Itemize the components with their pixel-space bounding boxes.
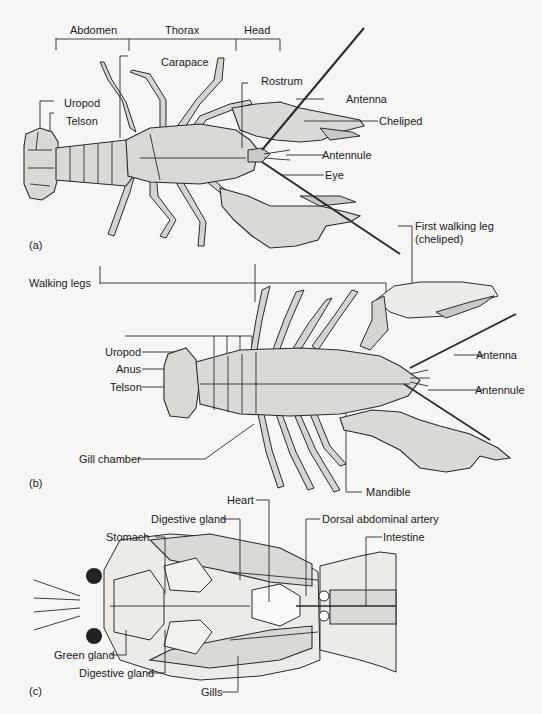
label-anus: Anus <box>116 363 141 375</box>
label-digestive-gland-bottom: Digestive gland <box>79 667 154 679</box>
region-brackets <box>56 38 280 51</box>
panel-label-b: (b) <box>29 477 42 489</box>
label-dorsal-abdominal-artery: Dorsal abdominal artery <box>322 513 439 525</box>
label-thorax: Thorax <box>165 24 199 36</box>
label-head: Head <box>244 24 270 36</box>
label-heart: Heart <box>227 494 254 506</box>
label-mandible: Mandible <box>366 486 411 498</box>
label-carapace: Carapace <box>161 56 209 68</box>
panel-label-a: (a) <box>29 239 42 251</box>
label-eye: Eye <box>325 169 344 181</box>
crayfish-ventral-view <box>164 282 516 492</box>
label-gill-chamber: Gill chamber <box>79 453 141 465</box>
label-antennule-a: Antennule <box>322 149 372 161</box>
label-first-walking-leg: First walking leg <box>415 220 494 232</box>
panel-label-c: (c) <box>29 685 42 697</box>
label-rostrum: Rostrum <box>261 75 303 87</box>
label-cheliped: Cheliped <box>379 115 422 127</box>
label-walking-legs: Walking legs <box>29 277 91 289</box>
label-stomach: Stomach <box>106 531 149 543</box>
label-telson-a: Telson <box>66 115 98 127</box>
label-gills: Gills <box>201 686 222 698</box>
label-antenna-b: Antenna <box>476 349 517 361</box>
label-antennule-b: Antennule <box>475 384 525 396</box>
label-abdomen: Abdomen <box>70 24 117 36</box>
label-uropod-b: Uropod <box>105 346 141 358</box>
label-uropod-a: Uropod <box>64 97 100 109</box>
crayfish-dorsal-view <box>24 28 400 254</box>
label-green-gland: Green gland <box>54 649 115 661</box>
label-antenna-a: Antenna <box>346 93 387 105</box>
label-digestive-gland-top: Digestive gland <box>151 513 226 525</box>
label-intestine: Intestine <box>383 531 425 543</box>
label-first-walking-leg-sub: (cheliped) <box>415 233 463 245</box>
label-telson-b: Telson <box>110 381 142 393</box>
